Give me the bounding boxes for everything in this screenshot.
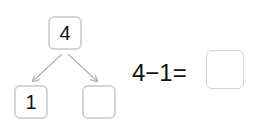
equation-text: 4−1=	[132, 59, 187, 87]
part-box-left: 1	[14, 85, 48, 119]
part-box-right-empty[interactable]	[82, 85, 116, 119]
whole-number: 4	[59, 22, 70, 45]
whole-number-box: 4	[48, 16, 82, 50]
answer-box[interactable]	[206, 50, 244, 89]
part-number-left: 1	[25, 91, 36, 114]
